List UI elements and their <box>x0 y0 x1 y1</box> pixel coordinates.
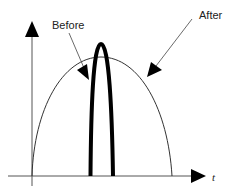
x-axis-label: t <box>212 171 216 183</box>
after-label: After <box>199 9 223 21</box>
before-annotation: Before <box>52 19 89 80</box>
y-axis-arrow-icon <box>25 21 39 37</box>
before-arrow-icon <box>77 64 89 80</box>
y-axis <box>25 21 39 186</box>
pulse-diagram: t Before After <box>0 0 235 195</box>
before-label: Before <box>52 19 84 31</box>
x-axis-arrow-icon <box>191 169 206 183</box>
after-annotation: After <box>147 9 223 77</box>
after-arrow-icon <box>147 62 162 77</box>
before-curve <box>91 44 114 176</box>
